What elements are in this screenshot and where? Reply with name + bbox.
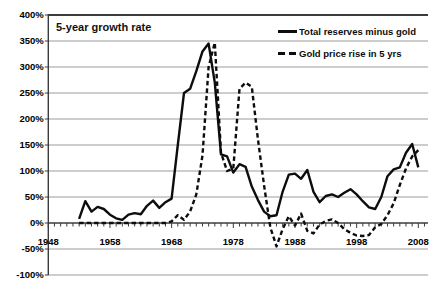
x-tick-label: 1998: [346, 236, 367, 247]
y-tick-label: 0%: [30, 217, 44, 228]
x-tick-label: 2008: [408, 236, 429, 247]
chart-container: 400%350%300%250%200%150%100%50%0%-50%-10…: [0, 0, 440, 295]
y-tick-label: -100%: [16, 269, 44, 280]
x-tick-label: 1978: [223, 236, 244, 247]
y-tick-label: 250%: [19, 87, 44, 98]
legend-item-gold-price: Gold price rise in 5 yrs: [278, 47, 416, 59]
series-total-reserves-line: [79, 44, 418, 220]
legend-item-total-reserves: Total reserves minus gold: [278, 25, 416, 37]
legend: Total reserves minus gold Gold price ris…: [278, 25, 416, 69]
chart-title: 5-year growth rate: [56, 21, 151, 33]
x-tick-label: 1958: [99, 236, 120, 247]
y-tick-label: 200%: [19, 113, 44, 124]
y-tick-label: 350%: [19, 35, 44, 46]
x-tick-label: 1988: [284, 236, 305, 247]
y-tick-label: 50%: [25, 191, 45, 202]
y-tick-label: 300%: [19, 61, 44, 72]
solid-line-sample-icon: [278, 30, 297, 33]
y-tick-label: 100%: [19, 165, 44, 176]
y-tick-label: 150%: [19, 139, 44, 150]
x-tick-label: 1968: [161, 236, 182, 247]
y-tick-label: 400%: [19, 9, 44, 20]
dashed-line-sample-icon: [278, 52, 297, 55]
x-tick-label: 1948: [38, 236, 59, 247]
legend-label-gold-price: Gold price rise in 5 yrs: [299, 48, 401, 59]
legend-label-total-reserves: Total reserves minus gold: [299, 26, 416, 37]
